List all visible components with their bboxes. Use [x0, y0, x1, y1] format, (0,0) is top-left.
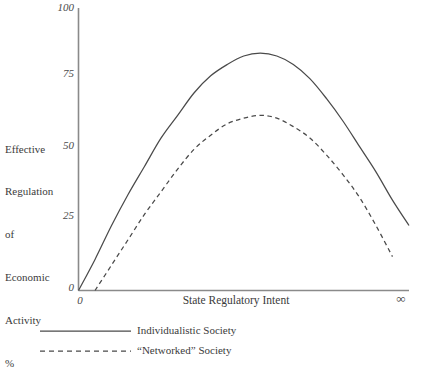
y-axis-title-line-6: %: [5, 356, 67, 370]
series-line-individualistic-society: [79, 53, 410, 290]
legend-label-networked-society: “Networked” Society: [137, 344, 231, 357]
y-axis-title: Effective Regulation of Economic Activit…: [5, 113, 67, 371]
y-axis-title-line-2: Regulation: [5, 184, 67, 198]
x-tick-label-zero: 0: [68, 294, 92, 307]
y-axis-title-line-4: Economic: [5, 270, 67, 284]
y-axis-title-line-3: of: [5, 227, 67, 241]
legend-label-individualistic-society: Individualistic Society: [137, 324, 236, 337]
y-axis-title-line-5: Activity: [5, 313, 67, 327]
y-tick-label-75: 75: [44, 67, 74, 80]
y-axis-title-line-1: Effective: [5, 142, 67, 156]
x-axis-title: State Regulatory Intent: [136, 294, 336, 308]
series-line-networked-society: [95, 115, 392, 290]
x-tick-label-infinity: ∞: [389, 291, 413, 306]
y-tick-label-100: 100: [44, 1, 74, 14]
